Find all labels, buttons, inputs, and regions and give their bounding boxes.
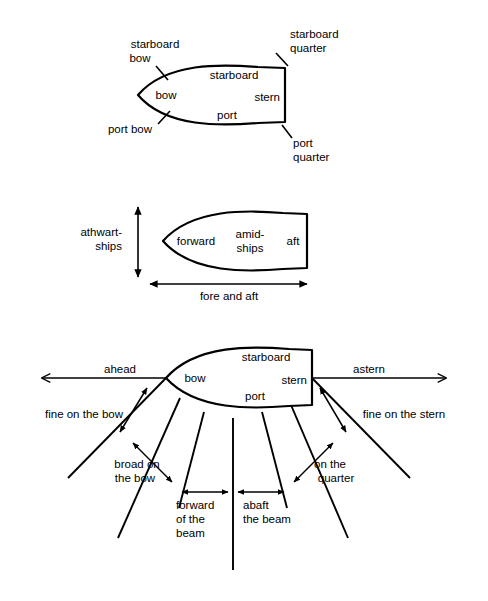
label-starboard-1: starboard [210,69,259,81]
label-starboard-bow-line2: bow [129,52,151,64]
label-forward-of-the-beam-line3: beam [176,527,205,539]
label-broad-on-the-bow-line1: broad on [114,458,159,470]
label-stern-3: stern [281,374,307,386]
label-port-3: port [245,390,266,402]
label-forward-2: forward [177,235,215,247]
diagram1-group: starboard bow starboard quarter port bow… [108,28,339,163]
label-starboard-3: starboard [242,351,291,363]
label-athwartships-line2: ships [95,240,122,252]
label-bow-3: bow [184,372,206,384]
label-forward-of-the-beam-line1: forward [176,499,214,511]
label-abaft-the-beam-line1: abaft [243,499,269,511]
leader-port-quarter [282,125,292,138]
diagram3-group: ahead astern fine on the bow fine on the… [42,347,446,570]
label-fine-on-the-bow: fine on the bow [45,408,124,420]
label-amidships-line1: amid- [236,228,265,240]
label-stern-1: stern [254,91,280,103]
label-on-the-quarter-line2: quarter [318,472,355,484]
label-athwartships-line1: athwart- [80,226,122,238]
label-ahead: ahead [104,363,136,375]
label-amidships-line2: ships [237,242,264,254]
ray-abaft-the-beam [262,412,287,508]
label-forward-of-the-beam-line2: of the [176,513,205,525]
label-broad-on-the-bow-line2: the bow [115,472,156,484]
label-aft-2: aft [287,235,301,247]
label-starboard-quarter-line2: quarter [290,42,327,54]
label-port-quarter-line2: quarter [293,151,330,163]
leader-starboard-quarter [276,53,288,66]
diagram-page: starboard bow starboard quarter port bow… [0,0,488,601]
ray-forward-of-the-beam [179,412,204,508]
label-fore-and-aft: fore and aft [200,290,259,302]
nautical-terminology-figure: starboard bow starboard quarter port bow… [0,0,488,601]
label-starboard-bow-line1: starboard [131,38,180,50]
label-fine-on-the-stern: fine on the stern [363,408,445,420]
label-bow-1: bow [155,89,177,101]
label-on-the-quarter-line1: on the [314,458,346,470]
diagram2-group: athwart- ships fore and aft forward amid… [80,207,307,302]
label-astern: astern [353,363,385,375]
label-abaft-the-beam-line2: the beam [243,513,291,525]
sector-arrow-fine-on-the-bow [120,388,147,432]
label-port-quarter-line1: port [293,137,314,149]
label-port-bow: port bow [108,123,153,135]
label-starboard-quarter-line1: starboard [290,28,339,40]
label-port-1: port [217,109,238,121]
